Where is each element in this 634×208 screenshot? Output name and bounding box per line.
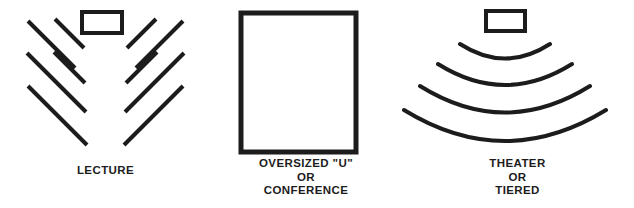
caption-lecture: LECTURE: [0, 164, 211, 178]
caption-conference: OVERSIZED "U"ORCONFERENCE: [211, 157, 401, 198]
seating-row: [28, 86, 87, 145]
caption-line: TIERED: [401, 184, 634, 198]
caption-theater: THEATERORTIERED: [401, 157, 634, 198]
caption-line: CONFERENCE: [211, 184, 401, 198]
caption-line: OR: [401, 171, 634, 185]
panel-lecture: LECTURE: [0, 0, 211, 208]
lecture-seating-diagram: [0, 0, 211, 160]
seating-row: [127, 19, 156, 48]
seating-row: [55, 19, 84, 48]
seating-row: [125, 53, 184, 112]
panel-theater: THEATERORTIERED: [401, 0, 634, 208]
seating-arc: [438, 64, 572, 85]
lecture-head-table-icon: [82, 12, 122, 33]
lecture-seating-rows-left: [27, 19, 87, 145]
lecture-seating-rows-right: [124, 19, 184, 145]
seating-row: [126, 52, 157, 83]
caption-line: OR: [211, 171, 401, 185]
theater-stage-icon: [486, 11, 525, 31]
seating-arc: [404, 110, 606, 141]
caption-line: OVERSIZED "U": [211, 157, 401, 171]
conference-table-icon: [241, 13, 356, 152]
caption-line: THEATER: [401, 157, 634, 171]
theater-tiered-seating-diagram: [401, 0, 634, 160]
seating-row: [54, 52, 85, 83]
theater-seating-arcs: [404, 44, 606, 141]
seating-arrangement-figure: LECTURE OVERSIZED "U"ORCONFERENCE THEATE…: [0, 0, 634, 208]
seating-arc: [420, 86, 590, 113]
seating-row: [27, 53, 86, 112]
panel-conference: OVERSIZED "U"ORCONFERENCE: [211, 0, 401, 208]
caption-line: LECTURE: [0, 164, 211, 178]
conference-table-diagram: [211, 0, 401, 160]
seating-row: [124, 86, 183, 145]
seating-arc: [460, 44, 550, 59]
